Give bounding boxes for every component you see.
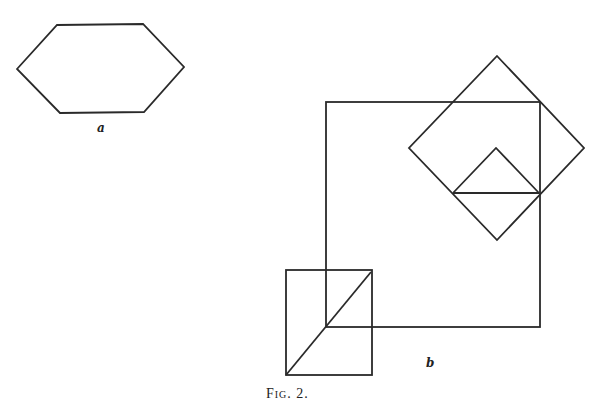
label-a: a	[97, 121, 105, 135]
small-triangle	[453, 148, 539, 193]
label-b: b	[426, 356, 434, 370]
large-square	[326, 102, 540, 327]
figure-canvas	[0, 0, 595, 408]
figure-caption: Fig. 2.	[266, 386, 309, 402]
rectangle-diagonal	[286, 272, 371, 375]
hexagon-a	[17, 24, 184, 113]
